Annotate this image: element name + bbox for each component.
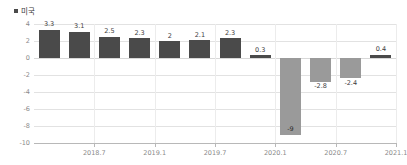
bar-value-label: 3.1 [64, 23, 94, 30]
bar[interactable] [370, 55, 391, 58]
bar[interactable] [310, 58, 331, 82]
y-axis-tick-label: -6 [24, 106, 30, 113]
y-axis-tick-label: 0 [26, 55, 30, 62]
bar-value-label: 2.3 [215, 30, 245, 37]
bar-value-label: 2.5 [94, 28, 124, 35]
x-axis-tick-label: 2020.7 [324, 149, 347, 157]
x-axis-tick-mark [155, 143, 156, 147]
y-axis-tick-label: 4 [26, 21, 30, 28]
bar[interactable] [39, 30, 60, 58]
x-axis-tick-label: 2018.7 [83, 149, 106, 157]
chart-legend: 미국 [14, 5, 35, 17]
y-axis-tick-label: -8 [24, 123, 30, 130]
x-axis-tick-mark [396, 143, 397, 147]
x-axis-separator [396, 24, 397, 143]
y-axis-tick-label: -2 [24, 72, 30, 79]
bar[interactable] [69, 32, 90, 58]
legend-label: 미국 [21, 7, 35, 16]
bar[interactable] [189, 40, 210, 58]
y-axis-tick-label: -4 [24, 89, 30, 96]
bar[interactable] [99, 37, 120, 58]
legend-swatch-icon [14, 9, 18, 13]
x-axis-separator [275, 24, 276, 143]
bar-value-label: 2.3 [125, 30, 155, 37]
x-axis-separator [336, 24, 337, 143]
bar[interactable] [129, 38, 150, 58]
bar[interactable] [220, 38, 241, 58]
bar[interactable] [340, 58, 361, 78]
bar-value-label: -2.4 [336, 80, 366, 87]
bar[interactable] [250, 55, 271, 58]
bar-value-label: 0.4 [366, 46, 396, 53]
x-axis-separator [155, 24, 156, 143]
x-axis-separator [215, 24, 216, 143]
x-axis: 2018.72019.12019.72020.12020.72021.1 [34, 143, 396, 165]
bar-value-label: 2.1 [185, 32, 215, 39]
bar-value-label: 2 [155, 33, 185, 40]
bar-value-label: -9 [275, 126, 305, 133]
bar[interactable] [159, 41, 180, 58]
x-axis-tick-mark [94, 143, 95, 147]
y-axis-tick-label: -10 [19, 140, 30, 147]
y-axis-tick-label: 2 [26, 38, 30, 45]
x-axis-tick-mark [275, 143, 276, 147]
bar[interactable] [280, 58, 301, 135]
x-axis-tick-label: 2021.1 [385, 149, 407, 157]
x-axis-tick-label: 2019.7 [204, 149, 227, 157]
x-axis-separator [94, 24, 95, 143]
bar-value-label: 3.3 [34, 21, 64, 28]
bar-value-label: 0.3 [245, 47, 275, 54]
x-axis-tick-label: 2020.1 [264, 149, 287, 157]
x-axis-tick-label: 2019.1 [143, 149, 166, 157]
x-axis-tick-mark [215, 143, 216, 147]
plot-area: 420-2-4-6-8-103.33.12.52.322.12.30.3-9-2… [34, 24, 396, 143]
x-axis-tick-mark [336, 143, 337, 147]
bar-value-label: -2.8 [306, 83, 336, 90]
